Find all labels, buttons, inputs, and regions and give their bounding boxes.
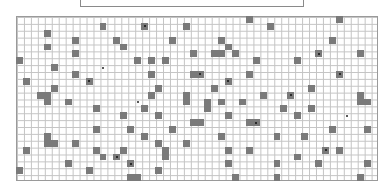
filled-cell[interactable] xyxy=(113,37,120,44)
filled-cell[interactable] xyxy=(190,71,197,78)
filled-cell[interactable] xyxy=(51,64,58,71)
game-grid[interactable] xyxy=(16,16,378,181)
filled-cell[interactable] xyxy=(204,99,211,106)
filled-cell[interactable] xyxy=(134,57,141,64)
dotted-cell[interactable] xyxy=(86,78,93,85)
filled-cell[interactable] xyxy=(357,99,364,106)
filled-cell[interactable] xyxy=(141,133,148,140)
filled-cell[interactable] xyxy=(169,37,176,44)
filled-cell[interactable] xyxy=(364,99,371,106)
filled-cell[interactable] xyxy=(364,126,371,133)
filled-cell[interactable] xyxy=(100,154,107,161)
filled-cell[interactable] xyxy=(301,133,308,140)
filled-cell[interactable] xyxy=(357,50,364,57)
filled-cell[interactable] xyxy=(218,37,225,44)
filled-cell[interactable] xyxy=(127,174,134,181)
filled-cell[interactable] xyxy=(190,50,197,57)
filled-cell[interactable] xyxy=(225,44,232,51)
filled-cell[interactable] xyxy=(120,147,127,154)
filled-cell[interactable] xyxy=(197,119,204,126)
filled-cell[interactable] xyxy=(274,174,281,181)
filled-cell[interactable] xyxy=(274,160,281,167)
filled-cell[interactable] xyxy=(155,167,162,174)
filled-cell[interactable] xyxy=(65,160,72,167)
filled-cell[interactable] xyxy=(155,85,162,92)
filled-cell[interactable] xyxy=(162,147,169,154)
filled-cell[interactable] xyxy=(239,99,246,106)
filled-cell[interactable] xyxy=(86,167,93,174)
filled-cell[interactable] xyxy=(93,105,100,112)
filled-cell[interactable] xyxy=(44,140,51,147)
filled-cell[interactable] xyxy=(364,160,371,167)
filled-cell[interactable] xyxy=(162,57,169,64)
filled-cell[interactable] xyxy=(218,133,225,140)
filled-cell[interactable] xyxy=(329,126,336,133)
filled-cell[interactable] xyxy=(329,37,336,44)
filled-cell[interactable] xyxy=(357,174,364,181)
filled-cell[interactable] xyxy=(44,30,51,37)
filled-cell[interactable] xyxy=(232,174,239,181)
dotted-cell[interactable] xyxy=(225,78,232,85)
filled-cell[interactable] xyxy=(308,105,315,112)
dotted-cell[interactable] xyxy=(253,119,260,126)
filled-cell[interactable] xyxy=(260,92,267,99)
filled-cell[interactable] xyxy=(93,147,100,154)
filled-cell[interactable] xyxy=(308,85,315,92)
filled-cell[interactable] xyxy=(72,140,79,147)
filled-cell[interactable] xyxy=(336,16,343,23)
filled-cell[interactable] xyxy=(148,92,155,99)
filled-cell[interactable] xyxy=(93,126,100,133)
filled-cell[interactable] xyxy=(225,160,232,167)
marker-dot-icon[interactable] xyxy=(134,99,141,106)
filled-cell[interactable] xyxy=(65,99,72,106)
filled-cell[interactable] xyxy=(246,119,253,126)
dotted-cell[interactable] xyxy=(287,92,294,99)
filled-cell[interactable] xyxy=(72,37,79,44)
filled-cell[interactable] xyxy=(204,105,211,112)
filled-cell[interactable] xyxy=(51,140,58,147)
filled-cell[interactable] xyxy=(120,44,127,51)
filled-cell[interactable] xyxy=(211,85,218,92)
filled-cell[interactable] xyxy=(294,57,301,64)
filled-cell[interactable] xyxy=(23,78,30,85)
filled-cell[interactable] xyxy=(218,50,225,57)
filled-cell[interactable] xyxy=(51,85,58,92)
dotted-cell[interactable] xyxy=(322,147,329,154)
filled-cell[interactable] xyxy=(246,147,253,154)
filled-cell[interactable] xyxy=(225,112,232,119)
marker-dot-icon[interactable] xyxy=(343,112,350,119)
filled-cell[interactable] xyxy=(280,105,287,112)
filled-cell[interactable] xyxy=(37,92,44,99)
filled-cell[interactable] xyxy=(218,99,225,106)
filled-cell[interactable] xyxy=(120,112,127,119)
filled-cell[interactable] xyxy=(162,154,169,161)
filled-cell[interactable] xyxy=(253,57,260,64)
filled-cell[interactable] xyxy=(100,23,107,30)
dotted-cell[interactable] xyxy=(127,160,134,167)
filled-cell[interactable] xyxy=(274,133,281,140)
filled-cell[interactable] xyxy=(155,140,162,147)
marker-dot-icon[interactable] xyxy=(100,64,107,71)
filled-cell[interactable] xyxy=(190,119,197,126)
filled-cell[interactable] xyxy=(72,71,79,78)
filled-cell[interactable] xyxy=(44,133,51,140)
filled-cell[interactable] xyxy=(336,147,343,154)
filled-cell[interactable] xyxy=(148,71,155,78)
filled-cell[interactable] xyxy=(134,174,141,181)
filled-cell[interactable] xyxy=(225,147,232,154)
filled-cell[interactable] xyxy=(169,126,176,133)
filled-cell[interactable] xyxy=(44,99,51,106)
filled-cell[interactable] xyxy=(127,126,134,133)
filled-cell[interactable] xyxy=(211,50,218,57)
filled-cell[interactable] xyxy=(183,140,190,147)
dotted-cell[interactable] xyxy=(141,23,148,30)
dotted-cell[interactable] xyxy=(336,71,343,78)
filled-cell[interactable] xyxy=(16,57,23,64)
filled-cell[interactable] xyxy=(155,112,162,119)
filled-cell[interactable] xyxy=(294,154,301,161)
filled-cell[interactable] xyxy=(44,44,51,51)
filled-cell[interactable] xyxy=(183,99,190,106)
dotted-cell[interactable] xyxy=(197,71,204,78)
filled-cell[interactable] xyxy=(23,147,30,154)
filled-cell[interactable] xyxy=(72,50,79,57)
